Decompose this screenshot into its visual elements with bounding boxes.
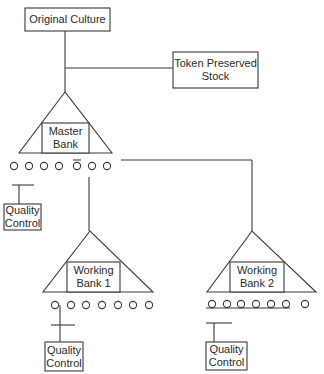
token-stock-label: Token Preserved Stock	[173, 52, 258, 88]
wb1-vials	[51, 301, 152, 308]
diagram-canvas	[0, 0, 324, 374]
wb2-qc-line2: Control	[209, 356, 244, 369]
wb2-qc-label: Quality Control	[206, 342, 247, 370]
original-culture-text: Original Culture	[29, 13, 105, 26]
master-qc-line2: Control	[5, 217, 40, 230]
wb2-line2: Bank 2	[240, 277, 274, 290]
original-culture-label: Original Culture	[25, 8, 110, 31]
wb1-line2: Bank 1	[76, 277, 110, 290]
wb1-qc-label: Quality Control	[45, 342, 83, 371]
master-qc-line1: Quality	[5, 204, 39, 217]
master-bank-line2: Bank	[53, 138, 78, 151]
master-bank-label: Master Bank	[42, 123, 89, 153]
wb1-qc-line1: Quality	[47, 344, 81, 357]
wb1-label: Working Bank 1	[67, 262, 120, 292]
wb2-line1: Working	[237, 264, 277, 277]
master-bank-vials	[10, 160, 110, 170]
master-bank-line1: Master	[49, 125, 83, 138]
wb2-label: Working Bank 2	[230, 262, 284, 292]
wb1-line1: Working	[73, 264, 113, 277]
token-stock-line1: Token Preserved	[174, 57, 257, 70]
master-qc-label: Quality Control	[4, 204, 41, 230]
wb1-qc-line2: Control	[46, 357, 81, 370]
wb2-vials	[206, 300, 309, 308]
token-stock-line2: Stock	[202, 70, 230, 83]
wb2-qc-line1: Quality	[209, 343, 243, 356]
